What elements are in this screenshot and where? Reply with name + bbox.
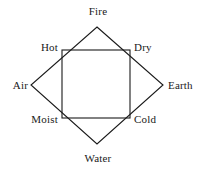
quality-label-hot: Hot [41,41,58,53]
element-label-earth: Earth [168,79,193,91]
diagram-canvas: Fire Air Earth Water Hot Dry Moist Cold [0,0,200,170]
element-label-air: Air [13,79,28,91]
quality-label-moist: Moist [31,113,58,125]
quality-label-dry: Dry [134,41,152,53]
quality-label-cold: Cold [134,113,156,125]
element-label-water: Water [85,152,112,164]
qualities-square-shape [62,50,130,118]
element-label-fire: Fire [89,5,108,17]
